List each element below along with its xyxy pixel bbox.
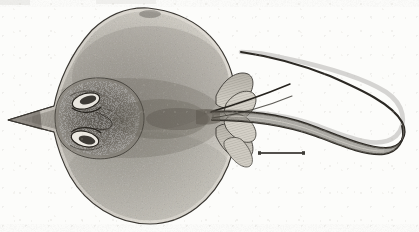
scale-bar — [258, 151, 305, 155]
bottom-edge-smudge — [0, 224, 419, 232]
illustration-plate: stingray, dorsal view engraving / stippl… — [0, 0, 419, 232]
tail-root — [196, 109, 220, 125]
scale-bar-line — [258, 152, 305, 154]
stingray-figure — [0, 0, 419, 232]
top-edge-smudge — [0, 0, 419, 7]
scale-bar-cap-left — [258, 151, 261, 155]
left-wing-tip — [8, 110, 42, 130]
scale-bar-cap-right — [302, 151, 305, 155]
snout-mark — [139, 10, 161, 18]
